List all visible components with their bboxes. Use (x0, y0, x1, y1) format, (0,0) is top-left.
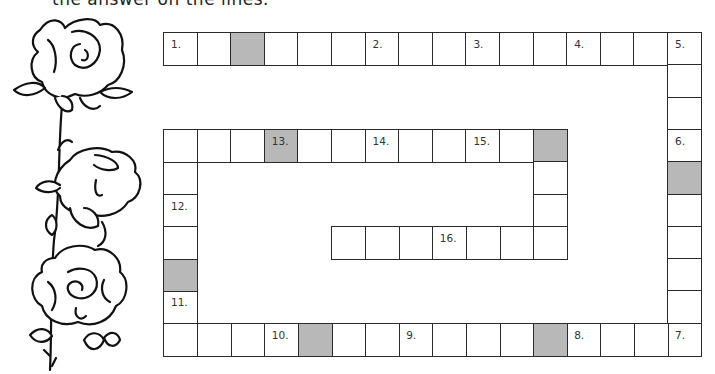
crossword-cell[interactable] (667, 64, 702, 98)
crossword-cell[interactable] (667, 258, 702, 292)
crossword-cell[interactable] (365, 323, 400, 357)
crossword-cell[interactable] (633, 323, 668, 357)
crossword-cell[interactable] (331, 226, 366, 260)
crossword-cell[interactable] (197, 323, 232, 357)
crossword-cell[interactable] (667, 226, 702, 260)
clue-number: 9. (406, 329, 416, 341)
crossword-cell[interactable] (197, 32, 232, 66)
crossword-cell[interactable] (667, 97, 702, 131)
crossword-cell[interactable] (667, 290, 702, 324)
crossword-cell[interactable] (533, 129, 568, 163)
crossword-cell[interactable] (230, 32, 265, 66)
crossword-cell[interactable] (230, 323, 265, 357)
crossword-cell[interactable] (331, 129, 366, 163)
crossword-cell[interactable] (499, 323, 534, 357)
crossword-cell[interactable] (499, 129, 534, 163)
crossword-cell[interactable] (163, 161, 198, 195)
clue-number: 2. (373, 38, 383, 50)
crossword-cell[interactable] (432, 129, 467, 163)
crossword-cell-10[interactable]: 10. (264, 323, 299, 357)
clue-number: 12. (171, 200, 188, 212)
crossword-cell[interactable] (465, 226, 500, 260)
crossword-cell[interactable] (163, 226, 198, 260)
clue-number: 3. (473, 38, 483, 50)
crossword-cell-12[interactable]: 12. (163, 194, 198, 228)
crossword-cell-2[interactable]: 2. (365, 32, 400, 66)
crossword-cell-5[interactable]: 5. (667, 32, 702, 66)
crossword-cell[interactable] (365, 226, 400, 260)
crossword-cell[interactable] (398, 32, 433, 66)
crossword-cell[interactable] (163, 258, 198, 292)
crossword-cell[interactable] (667, 161, 702, 195)
clue-number: 10. (272, 329, 289, 341)
clue-number: 4. (574, 38, 584, 50)
clue-number: 1. (171, 38, 181, 50)
crossword-cell[interactable] (600, 32, 635, 66)
crossword-cell-9[interactable]: 9. (398, 323, 433, 357)
crossword-cell-11[interactable]: 11. (163, 290, 198, 324)
crossword-cell[interactable] (667, 194, 702, 228)
crossword-cell[interactable] (230, 129, 265, 163)
clue-number: 5. (675, 38, 685, 50)
clue-number: 7. (675, 329, 685, 341)
crossword-cell-13[interactable]: 13. (264, 129, 299, 163)
crossword-cell[interactable] (533, 226, 568, 260)
crossword-cell[interactable] (499, 32, 534, 66)
crossword-cell-8[interactable]: 8. (566, 323, 601, 357)
clue-number: 6. (675, 135, 685, 147)
crossword-cell-6[interactable]: 6. (667, 129, 702, 163)
crossword-cell-1[interactable]: 1. (163, 32, 198, 66)
clue-number: 11. (171, 296, 188, 308)
crossword-cell[interactable] (163, 129, 198, 163)
crossword-cell[interactable] (331, 32, 366, 66)
clue-number: 15. (473, 135, 490, 147)
crossword-cell[interactable] (398, 226, 433, 260)
crossword-cell-16[interactable]: 16. (432, 226, 467, 260)
crossword-cell[interactable] (398, 129, 433, 163)
clue-number: 8. (574, 329, 584, 341)
crossword-cell-15[interactable]: 15. (465, 129, 500, 163)
clue-number: 14. (373, 135, 390, 147)
crossword-cell[interactable] (432, 323, 467, 357)
crossword-cell[interactable] (297, 129, 332, 163)
crossword-cell[interactable] (264, 32, 299, 66)
crossword-cell[interactable] (533, 161, 568, 195)
crossword-cell[interactable] (533, 32, 568, 66)
crossword-cell[interactable] (465, 323, 500, 357)
crossword-cell[interactable] (432, 32, 467, 66)
crossword-cell-3[interactable]: 3. (465, 32, 500, 66)
crossword-cell-14[interactable]: 14. (365, 129, 400, 163)
crossword-cell[interactable] (633, 32, 668, 66)
crossword-cell[interactable] (197, 129, 232, 163)
crossword-cell[interactable] (533, 323, 568, 357)
crossword-cell[interactable] (600, 323, 635, 357)
crossword-grid: 1.2.3.4.5.6.7.8.9.10.11.12.13.14.15.16. (0, 0, 715, 374)
crossword-cell[interactable] (499, 226, 534, 260)
clue-number: 16. (440, 232, 457, 244)
crossword-cell[interactable] (331, 323, 366, 357)
crossword-cell[interactable] (533, 194, 568, 228)
crossword-cell[interactable] (297, 32, 332, 66)
crossword-cell-7[interactable]: 7. (667, 323, 702, 357)
crossword-cell-4[interactable]: 4. (566, 32, 601, 66)
clue-number: 13. (272, 135, 289, 147)
crossword-cell[interactable] (163, 323, 198, 357)
crossword-cell[interactable] (297, 323, 332, 357)
